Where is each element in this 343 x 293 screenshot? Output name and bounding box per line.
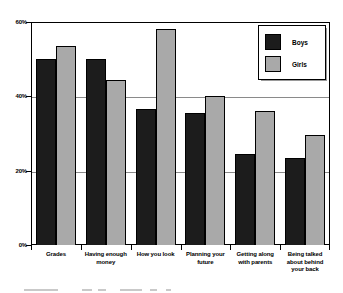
category-label-line: future <box>181 259 229 267</box>
category-label-line: Getting along <box>231 251 279 259</box>
category-label-line: money <box>82 259 130 267</box>
legend-item: Boys <box>265 31 325 53</box>
bar-girls <box>205 96 225 245</box>
legend-swatch <box>265 34 281 50</box>
x-axis-tick-mark <box>230 245 231 250</box>
bar-group <box>180 22 230 245</box>
x-axis-tick-mark <box>81 245 82 250</box>
legend-item: Girls <box>265 53 325 75</box>
category-label-line: your back <box>281 266 329 274</box>
category-label-line: Planning your <box>181 251 229 259</box>
legend-label: Girls <box>292 61 307 68</box>
bar-chart: 60%40%20%0% GradesHaving enoughmoneyHow … <box>0 0 343 293</box>
x-axis-category-label: Grades <box>31 251 81 274</box>
x-axis-labels: GradesHaving enoughmoneyHow you lookPlan… <box>31 251 330 274</box>
x-axis-tick-mark <box>280 245 281 250</box>
legend-swatch <box>265 56 281 72</box>
y-axis-tick-label: 20% <box>3 168 27 174</box>
bar-group <box>31 22 81 245</box>
bar-girls <box>106 80 126 245</box>
bar-group <box>81 22 131 245</box>
x-axis-category-label: Being talkedabout behindyour back <box>280 251 330 274</box>
x-axis-tick-mark <box>31 245 32 250</box>
category-label-line: Having enough <box>82 251 130 259</box>
x-axis-ticks <box>31 245 330 250</box>
legend-label: Boys <box>292 39 308 46</box>
legend: BoysGirls <box>258 25 326 80</box>
y-axis-tick-label: 60% <box>3 19 27 25</box>
bar-girls <box>156 29 176 245</box>
bar-girls <box>255 111 275 245</box>
bar-boys <box>136 109 156 245</box>
x-axis-category-label: Having enoughmoney <box>81 251 131 274</box>
category-label-line: with parents <box>231 259 279 267</box>
bar-boys <box>185 113 205 245</box>
bar-girls <box>56 46 76 245</box>
y-axis-tick-label: 0% <box>3 242 27 248</box>
bar-boys <box>86 59 106 245</box>
x-axis-tick-mark <box>181 245 182 250</box>
bar-boys <box>36 59 56 245</box>
x-axis-category-label: How you look <box>131 251 181 274</box>
bar-boys <box>235 154 255 245</box>
bar-group <box>131 22 181 245</box>
bar-boys <box>285 158 305 245</box>
category-label-line: about behind <box>281 259 329 267</box>
x-axis-category-label: Getting alongwith parents <box>230 251 280 274</box>
x-axis-category-label: Planning yourfuture <box>180 251 230 274</box>
bar-girls <box>305 135 325 245</box>
category-label-line: Being talked <box>281 251 329 259</box>
y-axis-tick-label: 40% <box>3 93 27 99</box>
category-label-line: How you look <box>132 251 180 259</box>
x-axis-tick-mark <box>131 245 132 250</box>
cropped-caption-artifact <box>24 288 324 292</box>
x-axis-tick-mark <box>329 245 330 250</box>
category-label-line: Grades <box>32 251 80 259</box>
